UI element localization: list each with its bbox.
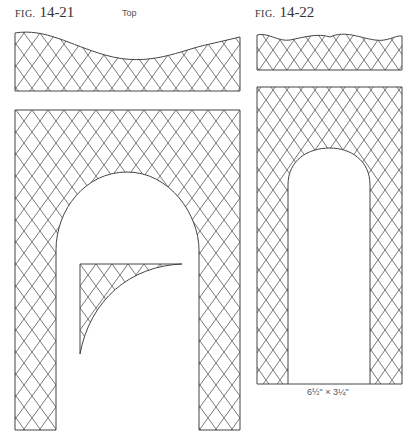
valance-14-22 <box>257 34 402 70</box>
corner-bracket-14-21 <box>80 264 182 354</box>
pattern-diagram <box>0 0 417 441</box>
arch-panel-14-22 <box>257 87 402 384</box>
valance-14-21 <box>15 32 240 91</box>
